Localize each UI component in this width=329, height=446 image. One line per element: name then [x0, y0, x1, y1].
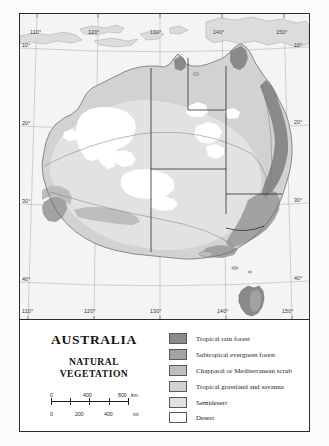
title-block: AUSTRALIA NATURAL VEGETATION — [28, 332, 160, 379]
scale-km-unit: km — [131, 392, 138, 398]
map-frame: 110° 120° 130° 140° 150° 110° 120° 130° … — [19, 13, 310, 432]
subtitle-line-1: NATURAL — [28, 356, 160, 367]
scale-tick-2 — [89, 398, 90, 405]
scale-row-km: 0 400 800 km — [51, 392, 147, 401]
scale-bar: 0 400 800 km 0 200 400 mi — [51, 392, 147, 420]
scale-mi-tick-200: 200 — [75, 411, 84, 417]
subtitle-line-2: VEGETATION — [28, 368, 160, 379]
scale-tick-1 — [70, 398, 71, 405]
legend-swatch-subtropical-evergreen-forest — [169, 349, 187, 360]
legend-swatch-semidesert — [169, 397, 187, 408]
legend-swatch-chapparal-mediterranean-scrub — [169, 365, 187, 376]
legend-label-tropical-rain-forest: Tropical rain forest — [196, 335, 250, 342]
scale-mi-tick-400: 400 — [104, 411, 113, 417]
legend-label-desert: Desert — [196, 414, 214, 421]
legend-label-chapparal-mediterranean-scrub: Chapparal or Mediterranean scrub — [196, 367, 292, 374]
legend-item-chapparal-mediterranean-scrub[interactable]: Chapparal or Mediterranean scrub — [169, 363, 303, 379]
scale-mi-unit: mi — [133, 411, 138, 417]
page-sheet: 110° 120° 130° 140° 150° 110° 120° 130° … — [0, 0, 329, 446]
scale-tick-4 — [128, 398, 129, 405]
legend-label-subtropical-evergreen-forest: Subtropical evergreen forest — [196, 351, 275, 358]
legend-item-tropical-rain-forest[interactable]: Tropical rain forest — [169, 331, 303, 347]
legend-label-tropical-grassland-savanna: Tropical grassland and savanna — [196, 383, 284, 390]
scale-km-tick-400: 400 — [83, 392, 92, 398]
scale-row-mi: 0 200 400 mi — [51, 411, 147, 420]
legend-swatch-tropical-rain-forest — [169, 333, 187, 344]
legend-panel: AUSTRALIA NATURAL VEGETATION 0 400 800 k… — [20, 320, 309, 431]
scale-tick-3 — [109, 398, 110, 405]
map-plate: 110° 120° 130° 140° 150° 110° 120° 130° … — [20, 14, 309, 320]
legend-list: Tropical rain forest Subtropical evergre… — [169, 331, 303, 426]
scale-km-tick-800: 800 — [118, 392, 127, 398]
scale-tick-0 — [51, 398, 52, 405]
legend-swatch-tropical-grassland-savanna — [169, 381, 187, 392]
legend-item-semidesert[interactable]: Semidesert — [169, 394, 303, 410]
australia-vegetation-map[interactable] — [20, 14, 309, 320]
legend-item-subtropical-evergreen-forest[interactable]: Subtropical evergreen forest — [169, 347, 303, 363]
legend-swatch-desert — [169, 412, 187, 423]
scale-mi-tick-0: 0 — [50, 411, 53, 417]
legend-item-tropical-grassland-savanna[interactable]: Tropical grassland and savanna — [169, 378, 303, 394]
legend-item-desert[interactable]: Desert — [169, 410, 303, 426]
page-title: AUSTRALIA — [28, 332, 160, 348]
legend-label-semidesert: Semidesert — [196, 399, 227, 406]
